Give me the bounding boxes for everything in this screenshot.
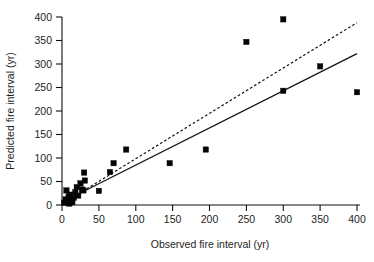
- x-tick-label: 350: [311, 213, 329, 225]
- x-tick-label: 0: [59, 213, 65, 225]
- y-tick-label: 300: [34, 58, 52, 70]
- scatter-plot-figure: 400 350 300 250 200 150 100 50 0 0 50 10…: [0, 0, 374, 262]
- x-tick-label: 250: [238, 213, 256, 225]
- data-point-marker: [281, 17, 286, 22]
- x-axis-ticks: [62, 205, 357, 211]
- x-tick-label: 200: [201, 213, 219, 225]
- y-tick-label: 200: [34, 105, 52, 117]
- y-tick-label: 50: [40, 175, 52, 187]
- x-tick-label: 100: [127, 213, 145, 225]
- y-tick-label: 0: [46, 199, 52, 211]
- y-axis-title: Predicted fire interval (yr): [4, 52, 16, 169]
- x-axis-tick-labels: 0 50 100 150 200 250 300 350 400: [59, 213, 366, 225]
- data-point-marker: [281, 88, 286, 93]
- data-markers-layer: [62, 17, 360, 207]
- x-tick-label: 50: [93, 213, 105, 225]
- y-tick-label: 250: [34, 81, 52, 93]
- x-tick-label: 400: [348, 213, 366, 225]
- trend-lines-layer: [62, 23, 357, 204]
- data-point-marker: [123, 147, 128, 152]
- data-point-marker: [111, 160, 116, 165]
- x-axis-title: Observed fire interval (yr): [151, 238, 269, 250]
- data-point-marker: [354, 90, 359, 95]
- data-point-marker: [76, 193, 81, 198]
- y-tick-label: 400: [34, 11, 52, 23]
- one-to-one-reference-line: [62, 23, 357, 204]
- regression-line: [62, 54, 357, 203]
- x-tick-label: 300: [275, 213, 293, 225]
- data-point-marker: [244, 39, 249, 44]
- y-tick-label: 100: [34, 152, 52, 164]
- data-point-marker: [107, 169, 112, 174]
- plot-canvas: 400 350 300 250 200 150 100 50 0 0 50 10…: [0, 0, 374, 262]
- y-tick-label: 150: [34, 128, 52, 140]
- data-point-marker: [96, 188, 101, 193]
- data-point-marker: [81, 170, 86, 175]
- data-point-marker: [167, 160, 172, 165]
- x-tick-label: 150: [164, 213, 182, 225]
- data-point-marker: [82, 178, 87, 183]
- data-point-marker: [203, 147, 208, 152]
- data-point-marker: [317, 64, 322, 69]
- y-axis-ticks: [56, 17, 62, 205]
- y-tick-label: 350: [34, 34, 52, 46]
- data-point-marker: [81, 188, 86, 193]
- y-axis-tick-labels: 400 350 300 250 200 150 100 50 0: [34, 11, 52, 211]
